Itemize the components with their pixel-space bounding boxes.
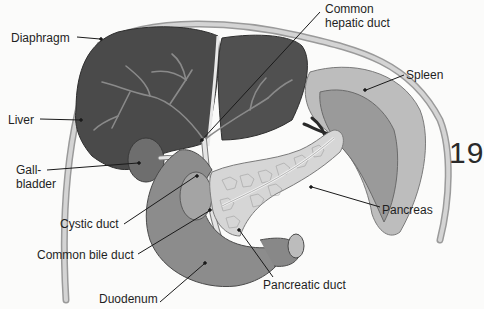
- label-common-hepatic-duct-line1: Common: [325, 2, 374, 16]
- leader-diaphragm: [77, 37, 100, 39]
- liver: [76, 27, 308, 170]
- label-cystic-duct: Cystic duct: [60, 217, 119, 231]
- label-common-hepatic-duct-line2: hepatic duct: [325, 16, 390, 30]
- label-common-bile-duct: Common bile duct: [37, 248, 134, 262]
- pancreas: [210, 130, 344, 236]
- label-gallbladder-line2: bladder: [16, 177, 56, 191]
- label-pancreatic-duct: Pancreatic duct: [263, 278, 346, 292]
- label-duodenum: Duodenum: [99, 292, 158, 306]
- label-diaphragm: Diaphragm: [11, 31, 70, 45]
- label-spleen: Spleen: [406, 68, 443, 82]
- label-liver: Liver: [8, 113, 34, 127]
- label-pancreas: Pancreas: [382, 203, 433, 217]
- page-number-fragment: 19: [449, 136, 484, 170]
- label-gallbladder-line1: Gall-: [16, 163, 41, 177]
